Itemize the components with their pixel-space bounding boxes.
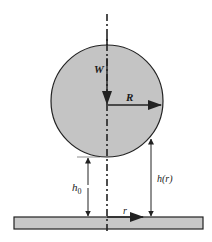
min-gap-label-sub: 0	[78, 187, 82, 196]
gap-function-label: h(r)	[157, 173, 173, 185]
radius-label: R	[125, 91, 133, 103]
min-gap-label: h0	[72, 181, 82, 196]
sphere-plate-diagram: W R h0 h(r) r	[0, 0, 212, 242]
radial-coordinate-label: r	[123, 205, 127, 216]
plate	[14, 217, 203, 229]
weight-label: W	[94, 63, 105, 75]
